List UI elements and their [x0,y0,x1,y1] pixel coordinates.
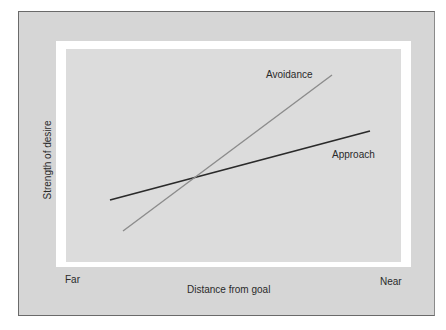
approach-label: Approach [332,149,375,160]
avoidance-line [123,75,332,231]
x-axis-label: Distance from goal [187,284,270,295]
y-axis-label: Strength of desire [42,121,53,200]
near-label: Near [380,276,402,287]
far-label: Far [65,274,80,285]
avoidance-label: Avoidance [266,69,313,80]
approach-line [110,131,370,200]
